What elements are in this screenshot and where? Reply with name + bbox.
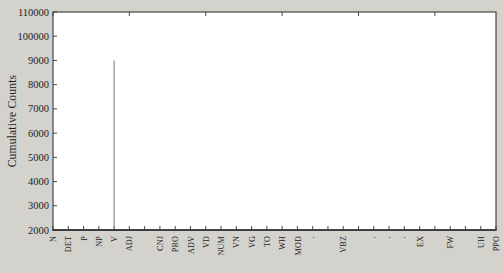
x-axis-tick-label: V — [110, 236, 119, 242]
y-axis-tick-label: 9000 — [28, 55, 49, 66]
x-axis-tick-label: WH — [278, 236, 287, 250]
x-axis-tick-label: · — [309, 236, 318, 239]
x-axis-tick-label: · — [400, 236, 409, 239]
figure-container: 1100001000009000800070006000500040003000… — [0, 0, 503, 273]
cumulative-counts-chart: 1100001000009000800070006000500040003000… — [0, 0, 503, 273]
x-axis-tick-label: ADV — [187, 236, 196, 254]
x-axis-tick-label: CNJ — [156, 235, 165, 251]
y-axis-tick-label: 100000 — [18, 31, 50, 42]
x-axis-tick-label: · — [370, 236, 379, 239]
x-axis-tick-label: TO — [263, 236, 272, 247]
x-axis-tick-label: NP — [95, 236, 104, 247]
plot-area-background — [53, 12, 496, 230]
x-axis-tick-label: VN — [232, 236, 241, 248]
y-axis-tick-label: 5000 — [28, 152, 49, 163]
x-axis-tick-label: UH — [477, 236, 486, 248]
x-axis-tick-label: PRO — [171, 236, 180, 252]
x-axis-tick-label: PPO — [492, 236, 501, 251]
x-axis-tick-label: ADJ — [125, 235, 134, 251]
y-axis-tick-label: 110000 — [18, 7, 49, 18]
x-axis-tick-label: · — [385, 236, 394, 239]
x-axis-tick-label: VD — [202, 236, 211, 248]
x-axis-tick-label: VG — [248, 236, 257, 248]
x-axis-tick-label: N — [49, 236, 58, 242]
x-axis-tick-label: NUM — [217, 235, 226, 255]
y-axis-tick-label: 2000 — [28, 225, 49, 236]
x-axis-tick-label: FW — [446, 236, 455, 249]
x-axis-tick-label: P — [80, 236, 89, 241]
y-axis-tick-label: 3000 — [28, 200, 49, 211]
y-axis-title: Cumulative Counts — [6, 74, 18, 167]
y-axis-tick-label: 7000 — [28, 103, 49, 114]
x-axis-tick-label: MOD — [294, 236, 303, 255]
x-axis-tick-label: EX — [416, 236, 425, 247]
y-axis-tick-label: 4000 — [28, 176, 49, 187]
y-axis-tick-label: 6000 — [28, 128, 49, 139]
x-axis-tick-label: VBZ — [339, 236, 348, 253]
y-axis-tick-label: 8000 — [28, 79, 49, 90]
x-axis-tick-label: DET — [64, 236, 73, 252]
